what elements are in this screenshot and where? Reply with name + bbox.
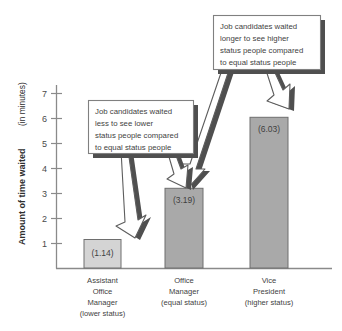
bar-value-label-office-manager: (3.19)	[173, 195, 195, 205]
y-tick-label-2: 2	[42, 214, 47, 224]
callout-higher-status: Job candidates waited longer to see high…	[214, 16, 326, 75]
callout-lower-status-line-3: to equal status people	[95, 143, 171, 152]
y-tick-label-6: 6	[42, 114, 47, 124]
y-axis-label-units: (in minutes)	[17, 82, 27, 126]
cat-0-line-1: Office	[93, 287, 113, 296]
callout-higher-status-line-0: Job candidates waited	[220, 22, 297, 31]
cat-2-line-2: (higher status)	[245, 298, 294, 307]
y-tick-label-3: 3	[42, 189, 47, 199]
bar-value-label-assistant-office-manager: (1.14)	[91, 248, 113, 258]
y-axis-label-bold: Amount of time waited	[17, 149, 27, 246]
cat-1-line-0: Office	[174, 276, 194, 285]
x-category-label-vice-president: Vice President (higher status)	[245, 276, 294, 307]
cat-1-line-1: Manager	[169, 287, 199, 296]
callout-lower-status: Job candidates waited less to see lower …	[89, 101, 199, 159]
cat-0-line-3: (lower status)	[80, 309, 126, 318]
y-tick-label-5: 5	[42, 139, 47, 149]
callout-higher-status-line-2: status people compared	[220, 46, 303, 55]
cat-2-line-1: President	[253, 287, 286, 296]
cat-2-line-0: Vice	[262, 276, 277, 285]
chart-figure: Amount of time waited (in minutes) 1 2 3…	[0, 0, 342, 331]
x-category-label-assistant-office-manager: Assistant Office Manager (lower status)	[80, 276, 126, 318]
cat-0-line-0: Assistant	[87, 276, 119, 285]
callout-higher-status-line-1: longer to see higher	[220, 34, 289, 43]
x-category-label-office-manager: Office Manager (equal status)	[161, 276, 207, 307]
callout-lower-status-line-2: status people compared	[95, 131, 178, 140]
cat-1-line-2: (equal status)	[161, 298, 207, 307]
bar-value-label-vice-president: (6.03)	[258, 124, 280, 134]
x-axis-category-labels: Assistant Office Manager (lower status) …	[80, 276, 294, 318]
bar-vice-president	[250, 117, 288, 268]
y-tick-label-1: 1	[42, 239, 47, 249]
y-tick-label-4: 4	[42, 164, 47, 174]
y-axis-ticks: 1 2 3 4 5 6 7	[42, 89, 62, 249]
y-axis-label-group: Amount of time waited (in minutes)	[17, 82, 27, 245]
y-tick-label-7: 7	[42, 89, 47, 99]
callout-higher-status-line-3: to equal status people	[220, 58, 296, 67]
bar-chart: Amount of time waited (in minutes) 1 2 3…	[0, 0, 342, 331]
callout-lower-status-line-1: less to see lower	[95, 119, 153, 128]
callout-lower-status-line-0: Job candidates waited	[95, 107, 172, 116]
cat-0-line-2: Manager	[88, 298, 118, 307]
